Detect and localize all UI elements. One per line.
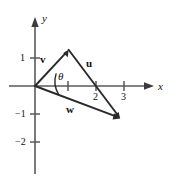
y-axis-arrow-icon [31, 17, 38, 27]
y-tick-label-1: 1 [20, 53, 25, 63]
vector-u-label: u [86, 58, 92, 69]
x-axis-label: x [158, 81, 163, 92]
x-tick-label-3: 3 [121, 92, 126, 102]
vector-w-line [35, 86, 117, 117]
diagram-canvas [0, 0, 171, 184]
vector-v-arrowhead-icon [63, 50, 68, 58]
vector-u-line [69, 50, 118, 115]
y-axis-label: y [42, 13, 47, 24]
vector-w-label: w [66, 104, 74, 115]
axes-group [9, 17, 154, 174]
vector-v-label: v [40, 54, 46, 65]
x-axis-arrow-icon [144, 82, 154, 89]
x-tick-label-2: 2 [93, 92, 98, 102]
y-tick-label-neg1: −1 [15, 109, 26, 119]
vectors-group [35, 50, 120, 120]
vector-diagram-figure: y x 1 −1 −2 2 3 v u w θ [0, 0, 171, 184]
angle-theta-label: θ [58, 71, 63, 82]
y-tick-label-neg2: −2 [15, 137, 26, 147]
